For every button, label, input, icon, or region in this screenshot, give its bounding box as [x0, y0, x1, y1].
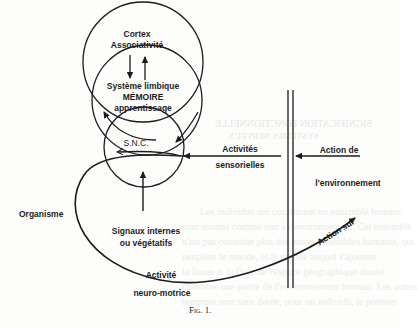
- label-activites: Activités: [222, 144, 257, 154]
- label-systeme-limbique: Système limbique: [107, 81, 179, 91]
- label-action-de: Action de: [320, 145, 359, 155]
- label-neuro-motrice: neuro-motrice: [133, 288, 190, 298]
- label-apprentissage: apprentissage: [114, 103, 172, 113]
- label-vegetatifs: ou végétatifs: [120, 238, 172, 248]
- label-sensorielles: sensorielles: [215, 160, 264, 170]
- label-snc: S.N.C.: [123, 138, 148, 148]
- label-organisme: Organisme: [19, 209, 63, 219]
- label-cortex: Cortex: [124, 29, 151, 39]
- label-associativite: Associativité: [111, 40, 163, 50]
- label-signaux-internes: Signaux internes: [112, 226, 181, 236]
- label-activite: Activité: [146, 270, 177, 280]
- label-environnement: l'environnement: [315, 178, 380, 188]
- figure-caption: Fig. 1.: [189, 305, 212, 315]
- organism-loop: [75, 155, 355, 283]
- label-memoire: MÉMOIRE: [123, 92, 164, 102]
